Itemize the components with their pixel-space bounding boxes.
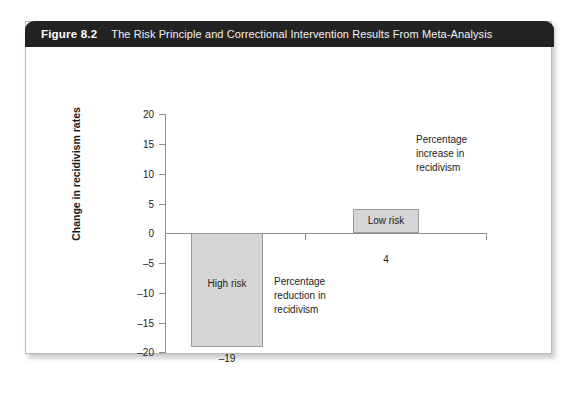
y-tick-label: 0 <box>114 228 154 239</box>
y-tick-label: 5 <box>114 199 154 210</box>
bar-value-high-risk: –19 <box>219 353 236 364</box>
y-tick-mark <box>159 174 165 175</box>
annotation-increase-note: Percentage increase in recidivism <box>416 133 467 175</box>
annotation-line: Percentage <box>416 133 467 147</box>
annotation-line: recidivism <box>416 161 467 175</box>
y-tick-mark <box>159 293 165 294</box>
y-axis-title: Change in recidivism rates <box>70 89 82 259</box>
y-tick-label: 15 <box>114 139 154 150</box>
x-tick-mark <box>486 234 487 240</box>
figure-card: Figure 8.2 The Risk Principle and Correc… <box>25 21 552 354</box>
x-tick-mark <box>305 234 306 240</box>
y-tick-mark <box>159 204 165 205</box>
annotation-line: Percentage <box>274 275 326 289</box>
y-tick-label: –20 <box>114 347 154 358</box>
y-tick-label: –10 <box>114 288 154 299</box>
y-tick-mark <box>159 263 165 264</box>
annotation-line: reduction in <box>274 289 326 303</box>
figure-caption-text: The Risk Principle and Correctional Inte… <box>111 28 492 40</box>
y-tick-label: 10 <box>114 169 154 180</box>
bar-label-high-risk: High risk <box>192 278 262 289</box>
figure-number-label: Figure 8.2 <box>41 28 97 40</box>
y-tick-mark <box>159 144 165 145</box>
bar-low-risk[interactable]: Low risk <box>353 209 419 233</box>
bar-high-risk[interactable]: High risk <box>191 233 263 347</box>
bar-value-low-risk: 4 <box>383 254 389 265</box>
annotation-line: recidivism <box>274 303 326 317</box>
y-tick-mark <box>159 323 165 324</box>
y-tick-mark <box>159 352 165 353</box>
annotation-reduction-note: Percentage reduction in recidivism <box>274 275 326 317</box>
y-axis-tick-labels: 20 15 10 5 0 –5 –10 –15 –20 <box>114 48 154 355</box>
bar-label-low-risk: Low risk <box>354 215 418 226</box>
figure-header: Figure 8.2 The Risk Principle and Correc… <box>25 21 554 47</box>
y-tick-label: 20 <box>114 109 154 120</box>
y-tick-mark <box>159 114 165 115</box>
chart-plot-area: Change in recidivism rates 20 15 10 5 0 … <box>26 48 553 355</box>
y-tick-label: –5 <box>114 258 154 269</box>
y-tick-label: –15 <box>114 318 154 329</box>
annotation-line: increase in <box>416 147 467 161</box>
